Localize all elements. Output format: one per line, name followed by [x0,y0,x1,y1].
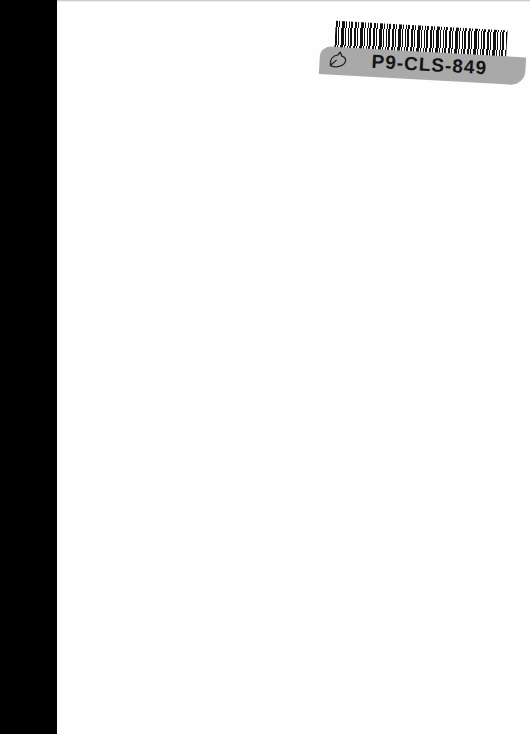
page-top-shadow [57,0,530,2]
scan-edge [0,0,57,734]
sticker-code: P9-CLS-849 [371,51,488,79]
barcode-sticker: P9-CLS-849 [318,18,528,103]
leaf-outline-icon [327,50,348,69]
blank-page [57,0,530,734]
